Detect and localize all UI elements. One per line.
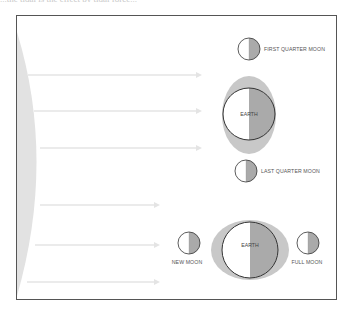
first-quarter-moon-label: FIRST QUARTER MOON [264,46,325,52]
new-moon-label: NEW MOON [172,259,203,265]
new-moon [178,232,200,254]
last-quarter-moon [235,160,257,182]
earth-label-top: EARTH [240,111,258,117]
earth-bottom [211,220,289,280]
first-quarter-moon [238,38,260,60]
last-quarter-moon-label: LAST QUARTER MOON [261,168,320,174]
tides-diagram: FIRST QUARTER MOON EARTH LAST QUARTER MO… [0,0,347,309]
full-moon [297,232,319,254]
earth-label-bottom: EARTH [241,242,259,248]
full-moon-label: FULL MOON [292,259,323,265]
diagram-frame [17,16,337,300]
